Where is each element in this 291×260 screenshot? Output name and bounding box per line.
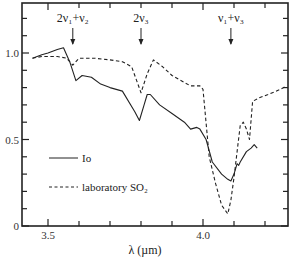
legend-label-lab-so2: laboratory SO₂ [82, 181, 148, 193]
x-tick-label: 4.0 [196, 229, 210, 241]
arrowhead-icon [228, 39, 233, 45]
x-tick-label: 3.5 [41, 229, 55, 241]
series-laboratory-so2 [33, 57, 287, 214]
y-tick-label: 0.5 [5, 134, 19, 146]
band-label: 2ν₁+ν₂ [57, 11, 89, 25]
band-label: 2ν₃ [133, 11, 149, 25]
spectrum-chart: 3.54.000.51.0 2ν₁+ν₂2ν₃ν₁+ν₃ Io laborato… [0, 0, 291, 260]
y-tick-label: 0 [14, 220, 20, 232]
band-annotations: 2ν₁+ν₂2ν₃ν₁+ν₃ [57, 11, 244, 45]
legend: Io laboratory SO₂ [49, 152, 148, 193]
data-series [33, 48, 287, 214]
axis-ticks: 3.54.000.51.0 [5, 3, 288, 241]
x-axis-label: λ (µm) [128, 243, 161, 257]
band-label: ν₁+ν₃ [218, 11, 244, 25]
legend-label-io: Io [82, 152, 92, 164]
y-tick-label: 1.0 [5, 47, 19, 59]
arrowhead-icon [70, 39, 75, 45]
series-io [33, 48, 258, 181]
arrowhead-icon [139, 39, 144, 45]
plot-frame [22, 3, 288, 226]
